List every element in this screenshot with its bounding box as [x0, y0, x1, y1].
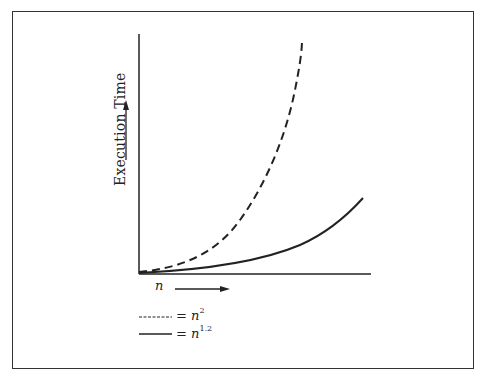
x-arrow-icon — [175, 286, 230, 292]
legend-equals: = — [176, 326, 191, 341]
plot-area — [0, 0, 487, 381]
legend-equals: = — [176, 308, 191, 323]
y-axis-label: Execution Time — [112, 73, 128, 186]
legend-item-n-1-2: = n1.2 — [176, 326, 212, 341]
curve-n-squared — [139, 40, 302, 272]
x-axis-label: n — [155, 278, 163, 293]
curve-n-1-2 — [139, 198, 363, 273]
legend-exponent: 2 — [199, 306, 204, 315]
legend-exponent: 1.2 — [199, 324, 212, 333]
legend-item-n-squared: = n2 — [176, 308, 205, 323]
